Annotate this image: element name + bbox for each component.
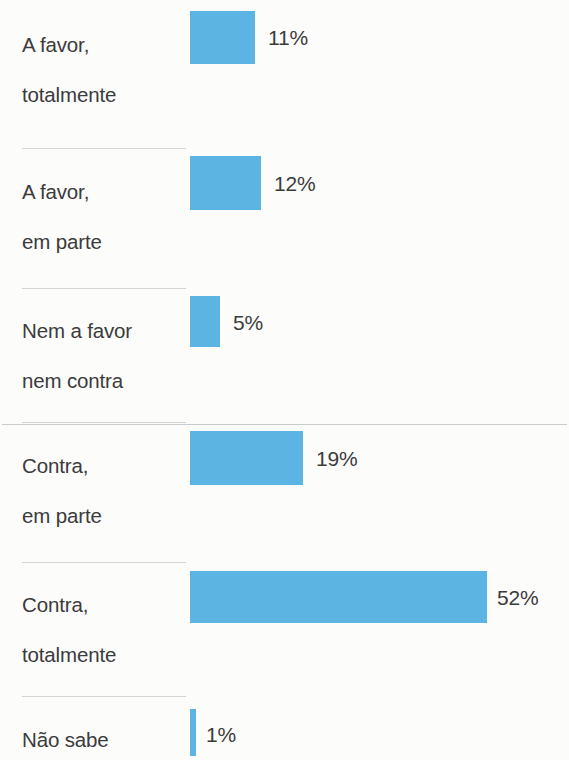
category-label-line: A favor, bbox=[22, 179, 182, 204]
category-label: Contra, totalmente bbox=[22, 567, 182, 692]
bar bbox=[190, 431, 303, 485]
chart-row: A favor, totalmente 11% bbox=[0, 0, 569, 74]
bar-value-label: 1% bbox=[206, 724, 236, 745]
category-label-line: totalmente bbox=[22, 642, 182, 667]
category-label-line: em parte bbox=[22, 229, 182, 254]
category-label-line: Contra, bbox=[22, 592, 182, 617]
row-separator bbox=[22, 562, 186, 563]
category-label-line: Contra, bbox=[22, 453, 182, 478]
bar bbox=[190, 296, 220, 347]
chart-row: Contra, em parte 19% bbox=[0, 422, 569, 492]
chart-rows: A favor, totalmente 11% A favor, em part… bbox=[0, 0, 569, 420]
bar bbox=[190, 571, 487, 623]
category-label-line: Nem a favor bbox=[22, 318, 182, 343]
category-label-line: nem contra bbox=[22, 368, 182, 393]
chart-bottom-rule bbox=[2, 424, 567, 425]
bar-value-label: 11% bbox=[268, 27, 308, 48]
bar-value-label: 19% bbox=[316, 448, 357, 469]
chart-row: Contra, totalmente 52% bbox=[0, 562, 569, 629]
bar bbox=[190, 11, 255, 64]
chart-row: Nem a favor nem contra 5% bbox=[0, 288, 569, 355]
bar-value-label: 5% bbox=[233, 312, 263, 333]
row-separator bbox=[22, 422, 186, 423]
category-label-line: A favor, bbox=[22, 32, 182, 57]
category-label: A favor, totalmente bbox=[22, 7, 182, 132]
chart-row: A favor, em parte 12% bbox=[0, 148, 569, 218]
row-separator bbox=[22, 148, 186, 149]
category-label: Não sabe bbox=[22, 702, 182, 760]
category-label-line: totalmente bbox=[22, 82, 182, 107]
category-label-line: Não sabe bbox=[22, 727, 182, 752]
bar bbox=[190, 709, 196, 756]
category-label: A favor, em parte bbox=[22, 154, 182, 279]
category-label: Nem a favor nem contra bbox=[22, 293, 182, 418]
category-label-line: em parte bbox=[22, 503, 182, 528]
bar bbox=[190, 156, 261, 210]
category-label: Contra, em parte bbox=[22, 428, 182, 553]
row-separator bbox=[22, 696, 186, 697]
chart-row: Não sabe 1% bbox=[0, 696, 569, 760]
row-separator bbox=[22, 288, 186, 289]
bar-value-label: 52% bbox=[497, 587, 538, 608]
bar-value-label: 12% bbox=[274, 173, 315, 194]
